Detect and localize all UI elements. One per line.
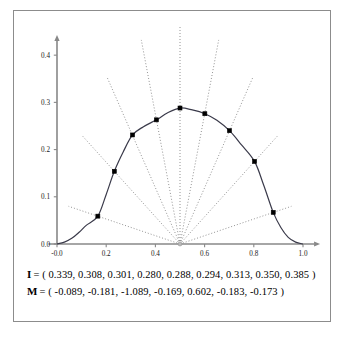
data-point-marker[interactable] bbox=[253, 159, 257, 163]
vector-values-I: = ( 0.339, 0.308, 0.301, 0.280, 0.288, 0… bbox=[33, 269, 315, 280]
y-tick-label-0: 0.0 bbox=[41, 241, 50, 249]
y-tick-label-1: 0.1 bbox=[41, 193, 50, 201]
y-tick-label-3: 0.3 bbox=[41, 99, 50, 107]
y-tick-label-4: 0.4 bbox=[41, 52, 50, 60]
radial-ray-1 bbox=[69, 206, 180, 244]
radial-ray-4 bbox=[141, 40, 180, 244]
vector-values-M: = ( -0.089, -0.181, -1.089, -0.169, 0.60… bbox=[39, 286, 284, 297]
radial-ray-6 bbox=[180, 40, 219, 244]
x-tick-label-5: 1.0 bbox=[299, 250, 308, 258]
data-point-marker[interactable] bbox=[271, 210, 275, 214]
data-point-marker[interactable] bbox=[203, 112, 207, 116]
x-tick-label-2: 0.4 bbox=[151, 250, 160, 258]
data-curve bbox=[57, 108, 303, 244]
caption-line-I: I= ( 0.339, 0.308, 0.301, 0.280, 0.288, … bbox=[27, 266, 327, 283]
data-point-marker[interactable] bbox=[112, 169, 116, 173]
radial-ray-3 bbox=[107, 78, 180, 244]
x-tick-label-0: -0.0 bbox=[51, 250, 63, 258]
data-point-marker[interactable] bbox=[131, 133, 135, 137]
x-tick-label-4: 0.8 bbox=[249, 250, 258, 258]
figure-container: -0.00.20.40.60.81.00.00.10.20.30.4 I= ( … bbox=[0, 0, 352, 337]
data-point-marker[interactable] bbox=[178, 106, 182, 110]
radial-ray-7 bbox=[180, 78, 253, 244]
ray-origin-dot bbox=[178, 242, 182, 246]
y-axis-arrow bbox=[54, 35, 59, 41]
x-tick-label-3: 0.6 bbox=[200, 250, 209, 258]
y-tick-label-2: 0.2 bbox=[41, 146, 50, 154]
caption-line-M: M= ( -0.089, -0.181, -1.089, -0.169, 0.6… bbox=[27, 283, 327, 300]
x-axis-arrow bbox=[314, 241, 320, 246]
vector-caption: I= ( 0.339, 0.308, 0.301, 0.280, 0.288, … bbox=[27, 266, 327, 312]
vector-label-M: M bbox=[27, 285, 39, 297]
data-point-marker[interactable] bbox=[154, 118, 158, 122]
x-tick-label-1: 0.2 bbox=[102, 250, 111, 258]
data-point-marker[interactable] bbox=[227, 129, 231, 133]
data-point-marker[interactable] bbox=[96, 214, 100, 218]
